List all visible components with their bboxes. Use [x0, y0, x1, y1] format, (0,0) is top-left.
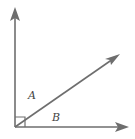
angle-a-label: A	[27, 89, 36, 102]
angle-diagram: A B	[0, 0, 135, 139]
angle-b-label: B	[51, 111, 60, 124]
